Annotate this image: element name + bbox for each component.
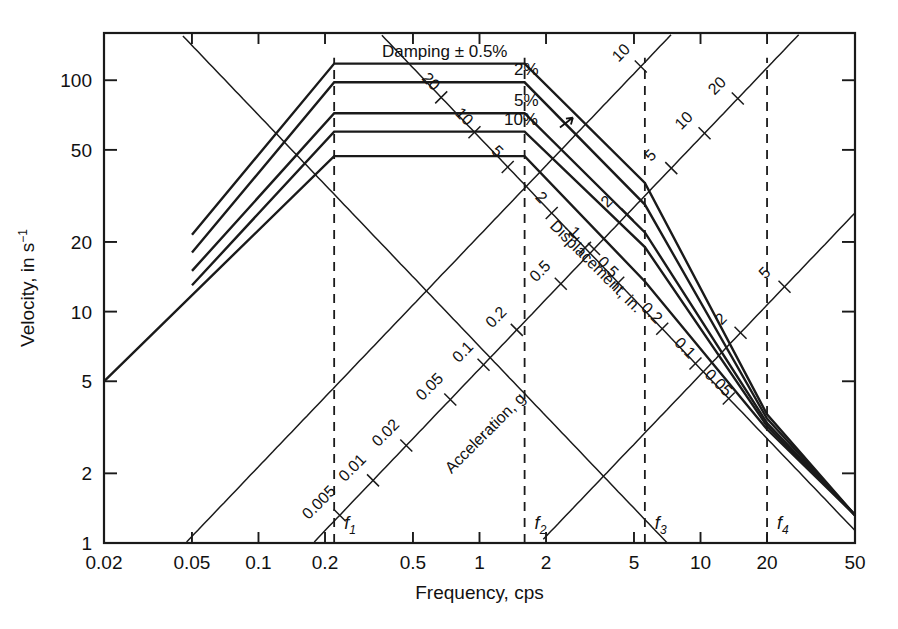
- acceleration-tick-5: 5: [641, 146, 659, 164]
- damping-label-2pct: 2%: [514, 60, 539, 79]
- chart-container: 0.020.050.10.20.5125102050Frequency, cps…: [0, 0, 898, 629]
- acceleration-tick-0.5: 0.5: [526, 257, 554, 285]
- acceleration-ruler-line: [314, 35, 798, 542]
- control-frequency-label-f1: f1: [344, 513, 356, 537]
- damping-label-10pct: 10%: [504, 110, 538, 129]
- acceleration-tick-0.1: 0.1: [449, 338, 477, 366]
- axis-ticks: [104, 33, 855, 543]
- x-tick-label-20: 20: [756, 552, 777, 573]
- x-tick-label-50: 50: [844, 552, 865, 573]
- displacement-tick-20: 20: [419, 69, 444, 94]
- y-tick-label-20: 20: [71, 232, 92, 253]
- displacement-tick-5: 5: [488, 142, 506, 160]
- tripartite-response-spectrum-chart: 0.020.050.10.20.5125102050Frequency, cps…: [0, 0, 898, 629]
- damping-label-5pct: 5%: [514, 91, 539, 110]
- x-tick-label-1: 1: [474, 552, 485, 573]
- displacement-tick-2: 2: [532, 188, 550, 206]
- y-tick-label-10: 10: [71, 302, 92, 323]
- spectrum-curve-2pct: [192, 82, 855, 515]
- acceleration-tick-right-5: 5: [755, 264, 773, 282]
- x-tick-label-10: 10: [690, 552, 711, 573]
- x-tick-label-0.2: 0.2: [312, 552, 338, 573]
- displacement-tick-0.05: 0.05: [702, 365, 736, 399]
- damping-label-0.5pct: Damping ± 0.5%: [382, 42, 508, 61]
- y-tick-label-100: 100: [60, 70, 92, 91]
- displacement-tick-10: 10: [452, 104, 477, 129]
- x-tick-label-0.02: 0.02: [86, 552, 123, 573]
- acceleration-tick-0.005: 0.005: [299, 482, 339, 522]
- plot-frame: [104, 33, 855, 543]
- spectrum-curve-ground: [104, 156, 855, 515]
- acceleration-tick-0.05: 0.05: [412, 370, 446, 404]
- acceleration-tick-20: 20: [705, 73, 730, 98]
- x-tick-label-5: 5: [629, 552, 640, 573]
- acceleration-tick-upper-10: 10: [609, 40, 634, 65]
- y-tick-label-5: 5: [81, 371, 92, 392]
- y-axis-title: Velocity, in s−1: [16, 229, 38, 347]
- spectrum-curve-5pct: [192, 113, 855, 515]
- acceleration-tick-0.02: 0.02: [368, 416, 402, 450]
- chart-text-labels: 0.020.050.10.20.5125102050Frequency, cps…: [16, 40, 866, 603]
- acceleration-tick-0.01: 0.01: [335, 450, 369, 484]
- acceleration-ruler-upper-left: [187, 35, 671, 542]
- displacement-ruler-lower-right: [183, 36, 667, 543]
- y-tick-label-50: 50: [71, 140, 92, 161]
- control-frequency-label-f4: f4: [777, 513, 789, 537]
- acceleration-tick-0.2: 0.2: [482, 303, 510, 331]
- x-tick-label-2: 2: [541, 552, 552, 573]
- x-tick-label-0.5: 0.5: [400, 552, 426, 573]
- x-tick-label-0.05: 0.05: [173, 552, 210, 573]
- acceleration-tick-10: 10: [671, 108, 696, 133]
- control-frequency-label-f3: f3: [655, 513, 667, 537]
- displacement-tick-0.1: 0.1: [671, 334, 699, 362]
- y-tick-label-1: 1: [81, 533, 92, 554]
- x-axis-title: Frequency, cps: [415, 582, 543, 603]
- control-frequency-label-f2: f2: [535, 513, 547, 537]
- y-tick-label-2: 2: [81, 463, 92, 484]
- x-tick-label-0.1: 0.1: [245, 552, 271, 573]
- acceleration-axis-title: Acceleration, g: [442, 389, 529, 476]
